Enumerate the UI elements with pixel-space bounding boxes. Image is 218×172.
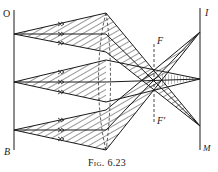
label-focal-upper: F <box>157 36 163 46</box>
label-focal-lower: F' <box>157 116 165 126</box>
label-image-bottom: M <box>203 144 211 153</box>
ray-diagram <box>0 0 218 172</box>
label-object-bottom: B <box>4 147 10 157</box>
figure-caption: Fig. 6.23 <box>88 157 126 168</box>
label-image-top: I <box>205 8 208 18</box>
label-object-top: O <box>3 9 10 19</box>
